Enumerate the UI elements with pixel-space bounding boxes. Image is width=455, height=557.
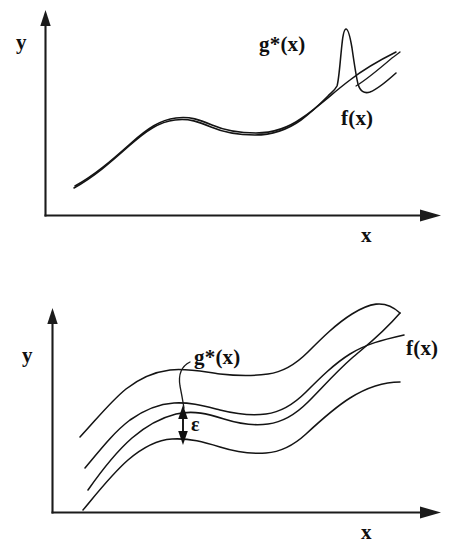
bottom-g-star-label: g*(x) bbox=[194, 347, 241, 368]
top-x-axis-label: x bbox=[361, 225, 372, 246]
figure-root: y x g*(x) f(x) bbox=[0, 0, 455, 557]
bottom-panel-canvas bbox=[0, 262, 455, 557]
top-curve-f-tail bbox=[356, 52, 400, 86]
top-y-axis-label: y bbox=[16, 32, 27, 53]
bottom-curve-g-star bbox=[88, 313, 400, 490]
bottom-curve-upper-envelope bbox=[80, 304, 400, 437]
bottom-curve-lower-envelope bbox=[83, 382, 400, 510]
top-panel-canvas bbox=[0, 0, 455, 262]
bottom-panel: y x g*(x) f(x) ε bbox=[0, 262, 455, 557]
top-y-axis-arrowhead bbox=[40, 10, 50, 26]
bottom-y-axis-label: y bbox=[22, 345, 33, 366]
top-f-label: f(x) bbox=[341, 108, 373, 129]
epsilon-label: ε bbox=[191, 414, 200, 434]
top-g-star-label: g*(x) bbox=[259, 34, 306, 55]
bottom-y-axis-arrowhead bbox=[47, 308, 57, 324]
bottom-x-axis-label: x bbox=[361, 522, 372, 543]
top-x-axis-arrowhead bbox=[420, 210, 441, 222]
epsilon-arrow-head-down bbox=[178, 431, 188, 445]
top-panel: y x g*(x) f(x) bbox=[0, 0, 455, 262]
bottom-f-label: f(x) bbox=[406, 338, 438, 359]
bottom-x-axis-arrowhead bbox=[420, 507, 441, 519]
